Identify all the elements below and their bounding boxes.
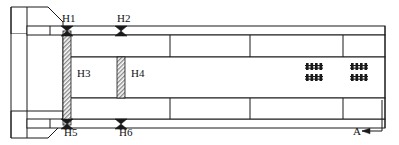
rebar-bar bbox=[360, 63, 363, 70]
rebar-bar bbox=[306, 74, 309, 81]
label-h4: H4 bbox=[131, 67, 145, 79]
rebar-bar bbox=[315, 63, 318, 70]
bottom-flange-band bbox=[27, 119, 385, 128]
h4-hatched-column bbox=[117, 57, 125, 98]
rebar-bar bbox=[360, 74, 363, 81]
rebar-bar bbox=[351, 63, 354, 70]
lower-web-band bbox=[63, 98, 385, 119]
rebar-bar bbox=[365, 74, 368, 81]
rebar-tie bbox=[305, 65, 323, 66]
rebar-bar bbox=[311, 74, 314, 81]
rebar-bar bbox=[356, 63, 359, 70]
label-h1: H1 bbox=[62, 12, 75, 24]
rebar-bar bbox=[351, 74, 354, 81]
rebar-tie bbox=[305, 79, 323, 80]
rebar-tie bbox=[305, 76, 323, 77]
drawing-svg: H1 H2 H3 H4 H5 H6 A bbox=[0, 0, 399, 145]
central-web-band bbox=[63, 57, 385, 98]
rebar-tie bbox=[350, 65, 368, 66]
rebar-tie bbox=[350, 79, 368, 80]
rebar-tie bbox=[350, 76, 368, 77]
rebar-bar bbox=[365, 63, 368, 70]
h3-hatched-column bbox=[63, 31, 71, 125]
top-flange-band bbox=[27, 26, 385, 35]
label-h2: H2 bbox=[117, 12, 130, 24]
rebar-tie bbox=[350, 68, 368, 69]
technical-drawing-canvas: H1 H2 H3 H4 H5 H6 A bbox=[0, 0, 399, 145]
upper-web-band bbox=[63, 35, 385, 57]
rebar-bar bbox=[311, 63, 314, 70]
section-arrow-icon bbox=[362, 128, 370, 134]
rebar-tie bbox=[305, 68, 323, 69]
rebar-bar bbox=[306, 63, 309, 70]
label-h3: H3 bbox=[77, 67, 91, 79]
rebar-bar bbox=[320, 63, 323, 70]
label-h5: H5 bbox=[64, 126, 78, 138]
rebar-bar bbox=[320, 74, 323, 81]
label-section-a: A bbox=[353, 125, 361, 137]
rebar-bar bbox=[356, 74, 359, 81]
rebar-bar bbox=[315, 74, 318, 81]
label-h6: H6 bbox=[119, 126, 133, 138]
abutment-body-fill bbox=[11, 34, 63, 122]
